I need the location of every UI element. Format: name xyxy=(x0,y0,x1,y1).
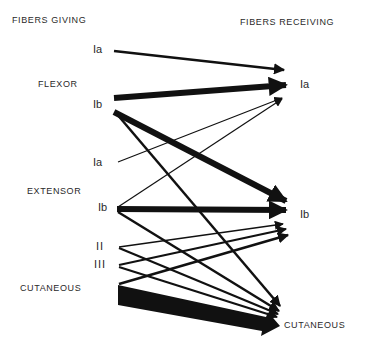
arrow-extensor-ib-to-ib xyxy=(117,209,286,210)
arrow-flexor-ia-to-ia xyxy=(114,51,284,70)
connection-diagram xyxy=(0,0,366,352)
group-cutaneous: CUTANEOUS xyxy=(20,283,81,293)
fiber-flexor-ib: Ib xyxy=(93,98,102,110)
header-fibers-receiving: FIBERS RECEIVING xyxy=(240,17,334,27)
fiber-extensor-ib: Ib xyxy=(98,201,107,213)
group-extensor: EXTENSOR xyxy=(27,186,81,196)
header-fibers-giving: FIBERS GIVING xyxy=(12,15,86,25)
fiber-flexor-ia: Ia xyxy=(93,43,102,55)
arrow-flexor-ib-to-ib xyxy=(114,112,286,201)
arrow-flexor-ib-to-ia xyxy=(114,85,286,98)
fiber-receiving-ia: Ia xyxy=(300,78,309,90)
group-flexor: FLEXOR xyxy=(38,79,78,89)
fiber-ii: II xyxy=(96,240,104,252)
fiber-iii: III xyxy=(94,258,106,270)
fiber-receiving-ib: Ib xyxy=(300,208,309,220)
fiber-receiving-cutaneous: CUTANEOUS xyxy=(284,320,345,330)
fiber-extensor-ia: Ia xyxy=(93,156,102,168)
